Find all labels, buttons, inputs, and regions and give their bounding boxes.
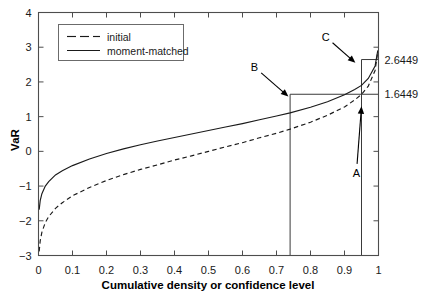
y-tick-label: −1	[19, 180, 32, 192]
legend: initial moment-matched	[59, 25, 189, 61]
y-axis-title: VaR	[9, 128, 21, 150]
x-tick-label: 0.3	[133, 264, 148, 276]
x-tick-label: 0.9	[337, 264, 352, 276]
y-tick-label: 0	[25, 145, 31, 157]
x-axis-title: Cumulative density or confidence level	[102, 279, 315, 291]
x-tick-label: 0.1	[65, 264, 80, 276]
x-tick-label: 0.7	[269, 264, 284, 276]
y-tick-label: 3	[25, 41, 31, 53]
var-quantile-chart: 00.10.20.30.40.50.60.70.80.91 43210−1−2−…	[0, 0, 423, 300]
x-tick-label: 0.4	[167, 264, 182, 276]
y-tick-label: −2	[19, 215, 32, 227]
annotation-label-c: C	[322, 31, 330, 43]
x-tick-label: 1	[375, 264, 381, 276]
y-tick-label: 2	[25, 76, 31, 88]
legend-label-initial: initial	[107, 31, 131, 43]
legend-label-moment-matched: moment-matched	[107, 45, 189, 57]
reference-value-label: 2.6449	[385, 54, 419, 66]
x-tick-label: 0	[35, 264, 41, 276]
annotation-label-b: B	[251, 61, 258, 73]
x-tick-label: 0.6	[235, 264, 250, 276]
chart-canvas: 00.10.20.30.40.50.60.70.80.91 43210−1−2−…	[0, 0, 423, 300]
reference-value-label: 1.6449	[385, 88, 419, 100]
annotation-label-a: A	[353, 167, 361, 179]
x-tick-label: 0.8	[303, 264, 318, 276]
y-tick-label: −3	[19, 250, 32, 262]
x-tick-label: 0.5	[201, 264, 216, 276]
y-tick-label: 1	[25, 111, 31, 123]
y-tick-label: 4	[25, 7, 31, 19]
x-tick-label: 0.2	[99, 264, 114, 276]
